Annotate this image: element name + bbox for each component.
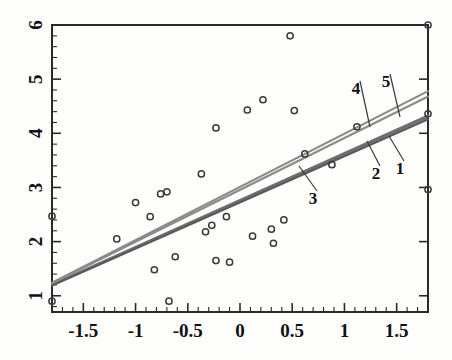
y-tick-label: 2 — [25, 237, 46, 247]
x-tick-label: 0.5 — [280, 320, 304, 341]
plot-background — [0, 0, 452, 360]
y-tick-label: 6 — [25, 20, 46, 30]
y-tick-label: 3 — [25, 183, 46, 193]
line-label-4: 4 — [352, 79, 361, 98]
x-tick-label: 0 — [235, 320, 245, 341]
x-tick-label: 1 — [340, 320, 350, 341]
y-tick-label: 4 — [25, 128, 46, 138]
x-tick-label: -1 — [128, 320, 144, 341]
line-label-3: 3 — [309, 189, 318, 208]
line-label-5: 5 — [382, 72, 391, 91]
x-tick-label: 1.5 — [385, 320, 409, 341]
scatter-plot-figure: -1.5-1-0.500.511.5 123456 12345 — [0, 0, 452, 360]
y-tick-label: 5 — [25, 74, 46, 84]
plot-canvas: -1.5-1-0.500.511.5 123456 12345 — [0, 0, 452, 360]
x-tick-label: -1.5 — [68, 320, 98, 341]
x-tick-label: -0.5 — [173, 320, 203, 341]
line-label-2: 2 — [372, 164, 381, 183]
y-tick-label: 1 — [25, 291, 46, 301]
line-label-1: 1 — [396, 159, 405, 178]
